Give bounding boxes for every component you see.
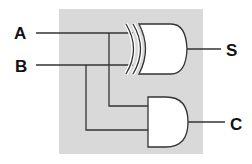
input-label-a: A [14, 24, 26, 43]
xor-gate [126, 24, 187, 74]
output-label-s: S [226, 41, 237, 60]
half-adder-diagram: A B S C [0, 0, 252, 164]
output-label-c: C [230, 115, 242, 134]
input-label-b: B [15, 57, 27, 76]
xor-body [139, 24, 187, 74]
and-gate [148, 97, 188, 147]
